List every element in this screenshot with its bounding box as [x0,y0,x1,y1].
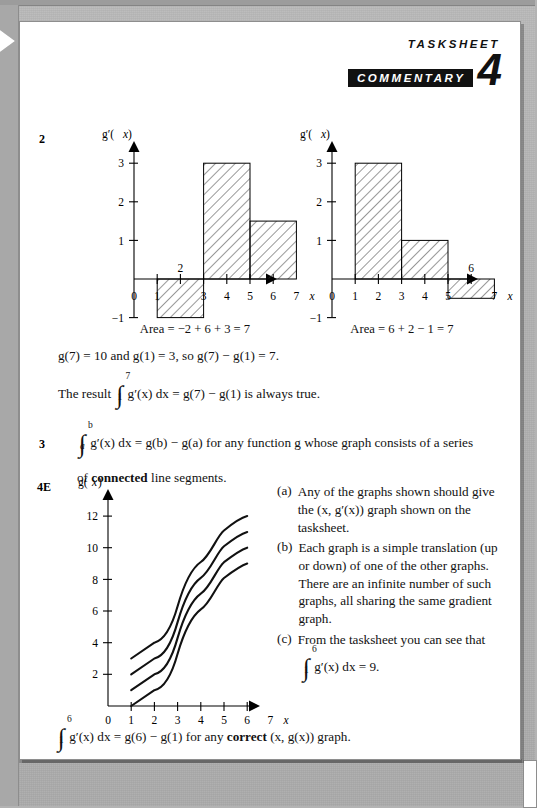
question-3-number: 3 [39,437,45,452]
q3-line-1: ∫ba g′(x) dx = g(b) − g(a) for any funct… [77,434,507,452]
svg-text:x: x [91,476,98,488]
svg-text:1: 1 [352,290,358,302]
question-2-number: 2 [39,132,45,147]
line-chart-tick-labels: 0 1 2 3 4 5 6 7 2 4 6 8 10 12 x [87,510,290,726]
svg-text:1: 1 [128,714,134,726]
footer-statement: ∫61 g′(x) dx = g(6) − g(1) for any corre… [56,728,506,746]
sheet-number: 4 [478,53,502,87]
svg-text:4: 4 [224,290,230,302]
q4-item-c-formula: ∫61 g′(x) dx = 9. [301,658,511,676]
svg-text:6: 6 [468,262,474,274]
commentary-label: COMMENTARY [348,69,473,87]
tasksheet-header: TASKSHEET COMMENTARY 4 [348,38,502,87]
top-edge-strip [0,0,535,6]
q4-item-c-text: From the tasksheet you can see that [297,630,487,650]
svg-text:5: 5 [445,290,451,302]
svg-text:2: 2 [152,714,158,726]
svg-text:3: 3 [201,290,207,302]
q4-item-a: (a) Any of the graphs shown should give … [277,482,507,537]
q2-line-1: g(7) = 10 and g(1) = 3, so g(7) − g(1) =… [58,347,488,365]
svg-text:): ) [98,476,102,489]
document-page: TASKSHEET COMMENTARY 4 2 [19,21,521,760]
q4-item-c-marker: (c) [277,630,297,650]
svg-text:6: 6 [244,714,250,726]
svg-text:2: 2 [178,262,184,274]
svg-text:0: 0 [131,290,137,302]
svg-text:2: 2 [376,290,382,302]
svg-text:g′(: g′( [102,128,114,141]
question-4-number: 4E [37,480,51,495]
q4-item-a-text: Any of the graphs shown should give the … [297,482,507,537]
svg-text:): ) [326,128,330,141]
svg-text:12: 12 [87,510,99,522]
svg-text:2: 2 [92,668,98,680]
svg-text:8: 8 [92,574,98,586]
svg-text:3: 3 [399,290,405,302]
footer-text-pre: g′(x) dx = g(6) − g(1) for any [69,729,227,744]
q4-item-b-marker: (b) [277,538,297,629]
line-chart-4e: 0 1 2 3 4 5 6 7 2 4 6 8 10 12 x g( x ) [64,474,274,724]
svg-text:4: 4 [92,637,98,649]
svg-text:): ) [128,128,132,141]
q2-line-2: The result ∫71 g′(x) dx = g(7) − g(1) is… [58,385,498,403]
line-chart-y-axis-label: g( x ) [78,476,102,489]
svg-text:3: 3 [316,157,322,169]
svg-text:2: 2 [316,196,322,208]
left-edge-strip [0,5,19,806]
corner-page-stub [523,760,537,808]
svg-text:5: 5 [221,714,227,726]
q4c-formula-text: g′(x) dx = 9. [314,659,379,674]
q4-item-b: (b) Each graph is a simple translation (… [277,538,510,629]
svg-text:x: x [282,714,289,726]
svg-text:0: 0 [329,290,335,302]
footer-text-bold: correct [227,729,267,744]
q4-item-a-marker: (a) [277,482,297,537]
svg-text:5: 5 [247,290,253,302]
svg-text:g′(: g′( [300,128,312,141]
footer-text-post: (x, g(x)) graph. [267,729,351,744]
svg-text:1: 1 [154,290,160,302]
svg-text:10: 10 [87,542,99,554]
svg-text:3: 3 [118,157,124,169]
svg-text:g(: g( [78,476,88,489]
svg-text:7: 7 [268,714,274,726]
svg-text:7: 7 [492,290,498,302]
svg-text:6: 6 [92,605,98,617]
svg-text:3: 3 [175,714,181,726]
left-pointer-icon [0,30,15,52]
svg-text:1: 1 [316,235,322,247]
svg-text:x: x [506,290,513,302]
svg-text:0: 0 [105,714,111,726]
q3-text: g′(x) dx = g(b) − g(a) for any function … [90,435,473,450]
left-chart-y-axis-label: g′( x ) [102,128,132,141]
line-chart-curves [131,516,247,706]
q4-item-b-text: Each graph is a simple translation (up o… [297,538,510,629]
left-chart-caption: Area = −2 + 6 + 3 = 7 [80,322,310,337]
svg-text:4: 4 [422,290,428,302]
q2-line-1-text: g(7) = 10 and g(1) = 3, so g(7) − g(1) =… [58,348,279,363]
svg-text:2: 2 [118,196,124,208]
svg-text:1: 1 [118,235,124,247]
bar-chart-left: 0 1 3 4 5 6 7 1 2 3 −1 2 x g′( x ) [80,120,280,310]
right-chart-caption: Area = 6 + 2 − 1 = 7 [302,322,502,337]
right-chart-y-axis-label: g′( x ) [300,128,330,141]
svg-text:4: 4 [198,714,204,726]
svg-text:6: 6 [270,290,276,302]
q2-result-suffix: g′(x) dx = g(7) − g(1) is always true. [128,386,320,401]
q2-result-prefix: The result [58,386,111,401]
bar-chart-right: 0 1 2 3 4 5 7 1 2 3 −1 6 x g′( x ) [292,120,492,310]
